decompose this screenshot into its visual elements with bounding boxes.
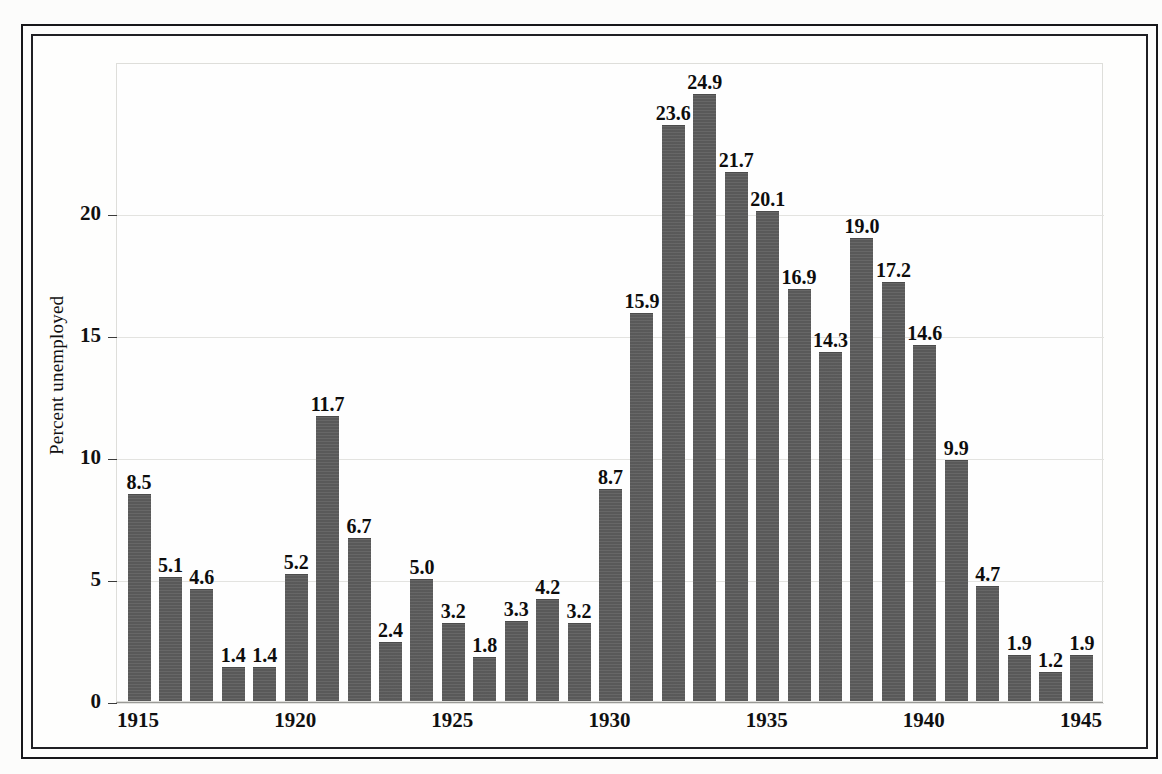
bar-1945 [1070, 655, 1093, 701]
bar-value-label-1939: 17.2 [870, 260, 916, 280]
x-tick-label-1935: 1935 [727, 709, 807, 732]
y-axis-title: Percent unemployed [46, 155, 68, 455]
bar-value-label-1932: 23.6 [650, 103, 696, 123]
bar-value-label-1922: 6.7 [336, 516, 382, 536]
bar-value-label-1938: 19.0 [839, 216, 885, 236]
bar-value-label-1926: 1.8 [462, 635, 508, 655]
bar-1939 [882, 282, 905, 701]
bar-value-label-1934: 21.7 [713, 150, 759, 170]
bar-value-label-1931: 15.9 [619, 291, 665, 311]
bar-1937 [819, 352, 842, 701]
bar-1924 [410, 579, 433, 701]
bar-value-label-1923: 2.4 [367, 620, 413, 640]
x-tick-label-1920: 1920 [255, 709, 335, 732]
bar-value-label-1915: 8.5 [116, 472, 162, 492]
bar-1922 [348, 538, 371, 701]
bar-value-label-1927: 3.3 [493, 599, 539, 619]
bar-1916 [159, 577, 182, 701]
bar-1940 [913, 345, 936, 701]
x-tick-label-1930: 1930 [570, 709, 650, 732]
bar-value-label-1945: 1.9 [1059, 633, 1105, 653]
bar-value-label-1940: 14.6 [902, 323, 948, 343]
y-tick-label-20: 20 [41, 203, 101, 224]
bar-1933 [693, 94, 716, 701]
bar-1936 [788, 289, 811, 701]
bar-value-label-1930: 8.7 [588, 467, 634, 487]
figure-canvas: Percent unemployed 05101520 8.55.14.61.4… [0, 0, 1162, 774]
y-tick-mark [108, 459, 117, 460]
bar-value-label-1924: 5.0 [399, 557, 445, 577]
gridline-y-0 [117, 703, 1104, 704]
bar-1920 [285, 574, 308, 701]
bar-value-label-1920: 5.2 [273, 552, 319, 572]
bar-value-label-1919: 1.4 [242, 645, 288, 665]
y-tick-label-10: 10 [41, 447, 101, 468]
x-tick-label-1915: 1915 [98, 709, 178, 732]
gridline-y-20 [117, 215, 1104, 216]
bar-value-label-1928: 4.2 [525, 577, 571, 597]
bar-1932 [662, 125, 685, 701]
y-tick-mark [108, 703, 117, 704]
y-tick-label-0: 0 [41, 691, 101, 712]
bar-1918 [222, 667, 245, 701]
bar-1930 [599, 489, 622, 701]
y-tick-mark [108, 581, 117, 582]
bar-1926 [473, 657, 496, 701]
y-tick-label-15: 15 [41, 325, 101, 346]
bar-value-label-1944: 1.2 [1028, 650, 1074, 670]
bar-1915 [128, 494, 151, 701]
bar-1931 [630, 313, 653, 701]
bar-value-label-1933: 24.9 [682, 72, 728, 92]
bar-1944 [1039, 672, 1062, 701]
bar-1923 [379, 642, 402, 701]
bar-1919 [253, 667, 276, 701]
bar-value-label-1942: 4.7 [965, 564, 1011, 584]
bar-value-label-1935: 20.1 [745, 189, 791, 209]
bar-value-label-1925: 3.2 [430, 601, 476, 621]
x-axis-line [116, 702, 1103, 703]
bar-1927 [505, 621, 528, 701]
bar-1929 [568, 623, 591, 701]
bar-value-label-1929: 3.2 [556, 601, 602, 621]
x-tick-label-1925: 1925 [412, 709, 492, 732]
bar-value-label-1937: 14.3 [808, 330, 854, 350]
bar-value-label-1921: 11.7 [305, 394, 351, 414]
x-tick-label-1940: 1940 [884, 709, 964, 732]
bar-1938 [850, 238, 873, 701]
gridline-y-15 [117, 337, 1104, 338]
y-tick-mark [108, 337, 117, 338]
x-tick-label-1945: 1945 [1041, 709, 1121, 732]
bar-value-label-1917: 4.6 [179, 567, 225, 587]
bar-value-label-1936: 16.9 [776, 267, 822, 287]
plot-area: 8.55.14.61.41.45.211.76.72.45.03.21.83.3… [116, 63, 1103, 702]
y-tick-label-5: 5 [41, 569, 101, 590]
bar-1934 [725, 172, 748, 701]
y-tick-mark [108, 215, 117, 216]
bar-1921 [316, 416, 339, 701]
bar-value-label-1941: 9.9 [933, 438, 979, 458]
